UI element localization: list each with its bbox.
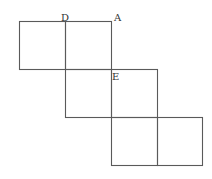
vertex-labels: D A E bbox=[61, 12, 122, 82]
squares-group bbox=[20, 22, 203, 166]
square-r1-c1 bbox=[66, 70, 112, 118]
cube-net-diagram: D A E bbox=[0, 0, 212, 179]
square-r0-c1 bbox=[66, 22, 112, 70]
square-r0-c0 bbox=[20, 22, 66, 70]
label-d: D bbox=[61, 12, 69, 23]
square-r2-c3 bbox=[158, 118, 203, 166]
label-e: E bbox=[112, 71, 119, 82]
square-r2-c2 bbox=[112, 118, 158, 166]
label-a: A bbox=[113, 12, 122, 23]
